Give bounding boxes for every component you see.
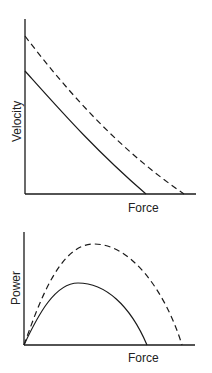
velocity-dashed-curve <box>25 36 184 194</box>
velocity-solid-curve <box>25 71 146 194</box>
velocity-y-label: Velocity <box>10 101 24 142</box>
power-y-label: Power <box>9 271 23 305</box>
figure: Force Velocity Force Power <box>0 0 212 373</box>
power-x-label: Force <box>128 351 159 365</box>
power-force-chart: Force Power <box>9 232 195 365</box>
power-dashed-curve <box>24 244 182 345</box>
velocity-force-chart: Force Velocity <box>10 19 196 215</box>
velocity-x-label: Force <box>128 201 159 215</box>
power-solid-curve <box>24 283 147 345</box>
